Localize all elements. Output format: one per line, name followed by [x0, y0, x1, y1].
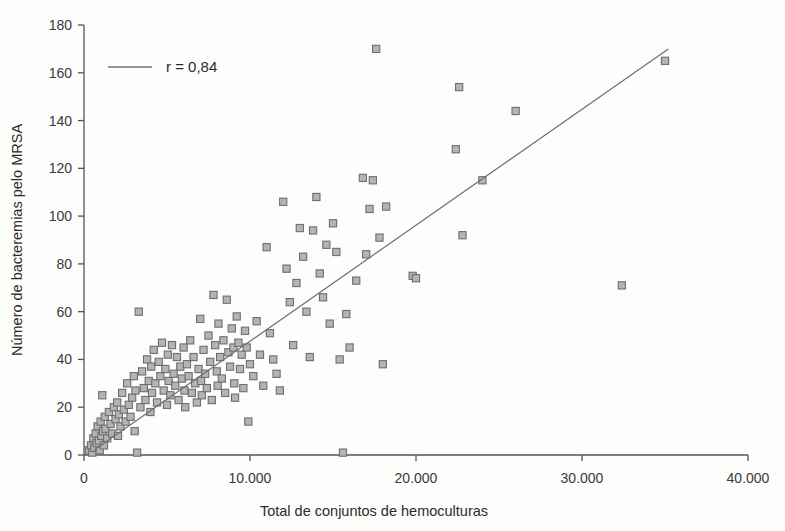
data-point [236, 365, 243, 372]
data-point [142, 396, 149, 403]
data-point [319, 294, 326, 301]
data-point [207, 358, 214, 365]
chart-canvas: 010.00020.00030.00040.000 02040608010012… [0, 0, 785, 531]
data-point [270, 356, 277, 363]
data-point [150, 346, 157, 353]
data-point [306, 353, 313, 360]
data-point [203, 385, 210, 392]
data-point [197, 315, 204, 322]
data-point [379, 361, 386, 368]
data-point [512, 107, 519, 114]
data-point [256, 351, 263, 358]
data-point [309, 227, 316, 234]
trend-line [94, 49, 668, 450]
data-point [366, 205, 373, 212]
data-point [263, 244, 270, 251]
data-point [459, 232, 466, 239]
x-axis-title: Total de conjuntos de hemoculturas [260, 503, 488, 519]
data-point [250, 373, 257, 380]
data-point [173, 353, 180, 360]
data-point [452, 146, 459, 153]
data-point [140, 385, 147, 392]
data-point [339, 449, 346, 456]
scatter-chart: 010.00020.00030.00040.000 02040608010012… [0, 0, 785, 531]
data-point [323, 241, 330, 248]
data-point [363, 251, 370, 258]
data-point [135, 308, 142, 315]
data-point [127, 413, 134, 420]
data-point [185, 373, 192, 380]
y-tick-label: 140 [49, 113, 73, 129]
data-point [180, 344, 187, 351]
y-tick-label: 120 [49, 160, 73, 176]
data-point [134, 449, 141, 456]
data-point [125, 401, 132, 408]
x-tick-label: 40.000 [727, 470, 770, 486]
data-point [343, 310, 350, 317]
data-point [172, 382, 179, 389]
data-point [139, 368, 146, 375]
data-point [300, 253, 307, 260]
data-point [235, 339, 242, 346]
legend-label: r = 0,84 [166, 58, 217, 75]
x-tick-label: 0 [80, 470, 88, 486]
data-point [245, 418, 252, 425]
data-point [231, 394, 238, 401]
legend: r = 0,84 [108, 58, 217, 75]
data-point [238, 351, 245, 358]
data-point [162, 365, 169, 372]
data-point [276, 387, 283, 394]
data-point [212, 342, 219, 349]
data-point [157, 373, 164, 380]
data-point [175, 396, 182, 403]
x-tick-label: 10.000 [229, 470, 272, 486]
data-point [303, 308, 310, 315]
data-point [187, 337, 194, 344]
data-point [286, 299, 293, 306]
data-point [241, 327, 248, 334]
data-point [383, 203, 390, 210]
data-point [193, 399, 200, 406]
data-point [220, 337, 227, 344]
data-point [280, 198, 287, 205]
data-point [412, 275, 419, 282]
y-tick-label: 20 [56, 399, 72, 415]
data-point [223, 296, 230, 303]
data-point [181, 387, 188, 394]
data-point [170, 370, 177, 377]
data-point [336, 356, 343, 363]
data-point [618, 282, 625, 289]
data-point [155, 358, 162, 365]
data-point [119, 389, 126, 396]
y-axis-tick-labels: 020406080100120140160180 [49, 17, 73, 463]
data-point [661, 57, 668, 64]
data-point [283, 265, 290, 272]
data-point [253, 318, 260, 325]
data-point [124, 380, 131, 387]
data-point [99, 392, 106, 399]
data-point [240, 385, 247, 392]
data-point [152, 380, 159, 387]
data-point [313, 193, 320, 200]
data-point [132, 387, 139, 394]
y-tick-label: 180 [49, 17, 73, 33]
data-point [456, 84, 463, 91]
data-point [260, 382, 267, 389]
data-point [131, 428, 138, 435]
data-point [273, 370, 280, 377]
y-tick-label: 40 [56, 351, 72, 367]
data-point [373, 45, 380, 52]
x-tick-label: 20.000 [395, 470, 438, 486]
data-point [296, 224, 303, 231]
data-point [228, 325, 235, 332]
x-tick-label: 30.000 [561, 470, 604, 486]
y-tick-label: 80 [56, 256, 72, 272]
y-axis-title: Número de bacteremias pelo MRSA [9, 124, 25, 356]
data-point [158, 339, 165, 346]
y-tick-label: 0 [64, 447, 72, 463]
data-point [214, 382, 221, 389]
data-point [205, 332, 212, 339]
data-point [316, 270, 323, 277]
data-point [137, 404, 144, 411]
data-point [114, 399, 121, 406]
